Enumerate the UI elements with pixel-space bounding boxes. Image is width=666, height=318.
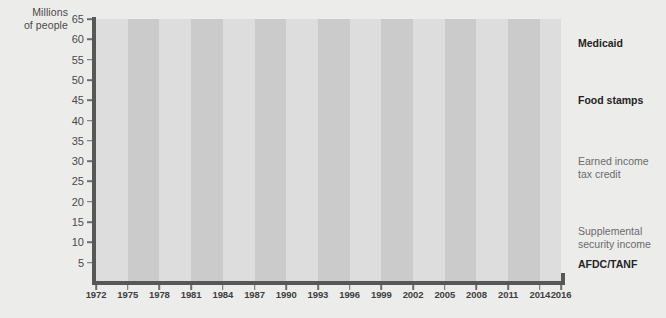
y-tick-label: 25 bbox=[58, 175, 84, 187]
series-label-afdc-tanf: AFDC/TANF bbox=[578, 258, 637, 271]
background-band bbox=[540, 19, 561, 283]
background-band bbox=[476, 19, 508, 283]
x-tick-label: 1978 bbox=[149, 289, 170, 300]
y-tick-label: 65 bbox=[58, 13, 84, 25]
background-band bbox=[128, 19, 160, 283]
background-band bbox=[413, 19, 445, 283]
background-band bbox=[191, 19, 223, 283]
x-tick-label: 2005 bbox=[434, 289, 455, 300]
y-tick-label: 40 bbox=[58, 115, 84, 127]
x-tick-label: 2002 bbox=[403, 289, 424, 300]
background-band bbox=[159, 19, 191, 283]
x-axis-end-cap bbox=[561, 273, 565, 285]
series-label-ssi: Supplemental security income bbox=[578, 225, 651, 250]
x-tick-label: 1975 bbox=[117, 289, 138, 300]
x-tick-label: 1984 bbox=[212, 289, 233, 300]
background-band bbox=[96, 19, 128, 283]
plot-area bbox=[96, 19, 561, 283]
chart-root: Millions of people 656055504540353025201… bbox=[0, 0, 666, 318]
y-tick-label: 35 bbox=[58, 135, 84, 147]
x-tick-label: 1999 bbox=[371, 289, 392, 300]
x-tick-label: 2011 bbox=[498, 289, 518, 300]
x-tick-label: 1987 bbox=[244, 289, 265, 300]
background-band bbox=[318, 19, 350, 283]
x-tick-label: 1981 bbox=[181, 289, 202, 300]
y-axis-line bbox=[92, 17, 96, 285]
series-label-medicaid: Medicaid bbox=[578, 37, 623, 50]
y-tick-label: 15 bbox=[58, 216, 84, 228]
x-tick-label: 1993 bbox=[308, 289, 329, 300]
x-tick-label: 1990 bbox=[276, 289, 297, 300]
background-band bbox=[223, 19, 255, 283]
background-band bbox=[350, 19, 382, 283]
x-axis-line bbox=[92, 281, 565, 285]
y-tick-label: 30 bbox=[58, 155, 84, 167]
series-label-food-stamps: Food stamps bbox=[578, 94, 643, 107]
y-tick-label: 55 bbox=[58, 54, 84, 66]
background-band bbox=[445, 19, 477, 283]
background-band bbox=[255, 19, 287, 283]
y-tick-label: 45 bbox=[58, 94, 84, 106]
background-band bbox=[381, 19, 413, 283]
y-tick-label: 20 bbox=[58, 196, 84, 208]
background-band bbox=[508, 19, 540, 283]
x-tick-label: 2014 bbox=[529, 289, 550, 300]
background-band bbox=[286, 19, 318, 283]
x-tick-label: 1972 bbox=[86, 289, 107, 300]
y-tick-label: 10 bbox=[58, 236, 84, 248]
series-label-eitc: Earned income tax credit bbox=[578, 155, 649, 180]
x-tick-label: 2008 bbox=[466, 289, 487, 300]
x-tick-label: 1996 bbox=[339, 289, 360, 300]
x-tick-label: 2016 bbox=[551, 289, 572, 300]
y-tick-label: 50 bbox=[58, 74, 84, 86]
y-tick-label: 60 bbox=[58, 33, 84, 45]
y-tick-label: 5 bbox=[58, 257, 84, 269]
